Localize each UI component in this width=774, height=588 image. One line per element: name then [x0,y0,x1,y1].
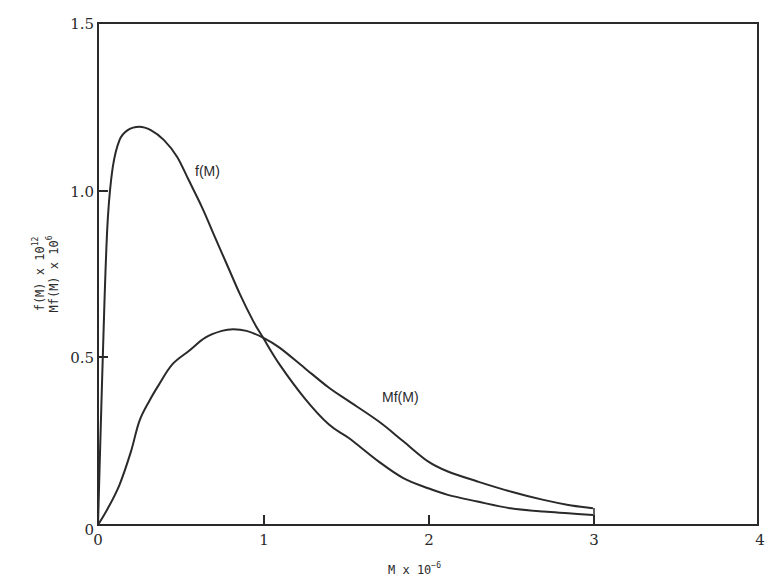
svg-text:f(M) x 1012: f(M) x 1012 [31,236,47,311]
mf-m-curve [98,329,593,525]
f-m-annotation: f(M) [195,163,220,179]
y-tick-label: 1.0 [70,183,94,201]
f-m-curve [98,127,593,525]
x-tick-label: 2 [424,531,434,549]
plot-frame [98,23,758,525]
x-tick-label: 3 [589,531,599,549]
x-tick-label: 4 [755,531,765,549]
x-axis-ticks [264,515,594,525]
x-tick-label: 0 [93,531,103,549]
x-tick-label: 1 [259,531,269,549]
mf-m-annotation: Mf(M) [382,389,419,405]
chart-canvas: 0 1 2 3 4 0 0.5 1.0 1.5 M x 10−6 f(M) x … [0,0,774,588]
y-tick-label: 1.5 [70,15,94,33]
y-axis-title: f(M) x 1012 Mf(M) x 106 [31,235,61,312]
y-tick-label: 0.5 [70,349,94,367]
svg-text:Mf(M) x 106: Mf(M) x 106 [45,235,61,312]
x-axis-title: M x 10−6 [388,561,441,577]
y-tick-label: 0 [84,521,94,539]
